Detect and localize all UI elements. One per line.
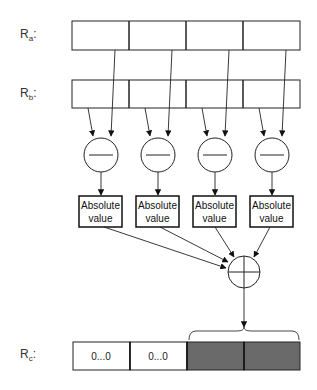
register-ra [72, 21, 300, 50]
subtractor-1 [141, 138, 175, 172]
abs-label-line2: value [203, 213, 227, 224]
rc-cell-0-text: 0...0 [91, 351, 111, 362]
abs-label-line1: Absolute [195, 200, 234, 211]
abs-box-1: Absolute value [136, 196, 179, 227]
rc-cell-3 [244, 342, 300, 370]
arrow-rb-1 [145, 108, 150, 136]
curly-brace [189, 327, 299, 340]
abs-box-3: Absolute value [250, 196, 293, 227]
abs-label-line1: Absolute [81, 200, 120, 211]
arrow-abs-add-3 [254, 227, 270, 257]
subtractors [84, 138, 289, 172]
abs-box-2: Absolute value [193, 196, 236, 227]
rc-cell-2 [187, 342, 244, 370]
abs-label-line2: value [260, 213, 284, 224]
arrow-rb-3 [259, 108, 264, 136]
subtractor-2 [198, 138, 232, 172]
abs-label-line1: Absolute [138, 200, 177, 211]
arrow-rb-0 [88, 108, 93, 136]
subtractor-3 [255, 138, 289, 172]
sad-diagram: Absolute value Absolute value Absolute v… [0, 0, 317, 390]
rc-cell-1-text: 0...0 [148, 351, 168, 362]
adder [228, 256, 260, 288]
abs-label-line2: value [89, 213, 113, 224]
arrow-rb-2 [202, 108, 207, 136]
register-rb [72, 80, 300, 108]
abs-label-line1: Absolute [252, 200, 291, 211]
abs-box-0: Absolute value [79, 196, 122, 227]
register-rc: 0...0 0...0 [73, 342, 300, 370]
subtractor-0 [84, 138, 118, 172]
abs-boxes: Absolute value Absolute value Absolute v… [79, 196, 293, 227]
arrow-abs-add-0 [104, 227, 226, 268]
arrow-abs-add-2 [215, 227, 234, 257]
sub-to-abs-arrows [101, 172, 272, 195]
abs-label-line2: value [146, 213, 170, 224]
